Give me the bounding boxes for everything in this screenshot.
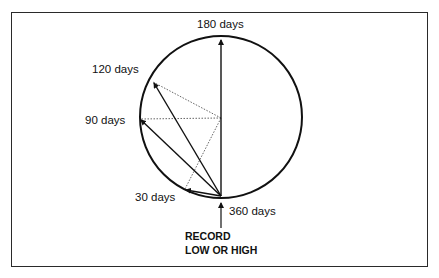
label-30-days: 30 days	[135, 192, 175, 204]
dotted-radii	[140, 82, 221, 189]
label-low-or-high: LOW OR HIGH	[185, 245, 257, 256]
label-360-days: 360 days	[229, 206, 276, 218]
label-180-days: 180 days	[197, 19, 244, 31]
label-90-days: 90 days	[85, 115, 125, 127]
solid-chords	[141, 40, 221, 196]
label-120-days: 120 days	[92, 64, 139, 76]
chord-120	[154, 83, 221, 196]
chord-90	[141, 120, 221, 196]
label-record: RECORD	[185, 231, 231, 242]
